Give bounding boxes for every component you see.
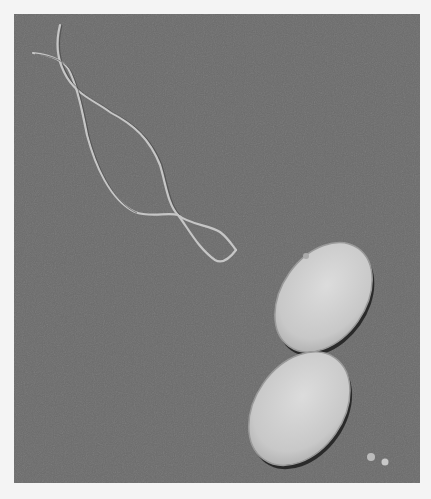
bacterium-illustration [14,14,420,483]
micrograph-photo [14,14,420,483]
